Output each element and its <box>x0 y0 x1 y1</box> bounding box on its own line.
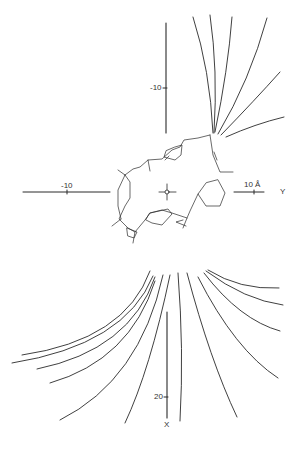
diagram-canvas <box>0 0 299 451</box>
x-tick-label-neg10: -10 <box>150 84 162 92</box>
y-tick-label-neg10: -10 <box>61 182 73 190</box>
upper-trajectories <box>193 15 284 137</box>
lower-trajectories <box>12 270 283 423</box>
x-axis-upper <box>163 23 167 133</box>
x-axis-lower <box>164 312 168 418</box>
y-axis-name: Y <box>280 188 285 196</box>
y-axis-right <box>234 190 264 194</box>
origin-crosshair-icon <box>159 184 176 200</box>
y-tick-label-10: 10 Å <box>244 181 260 189</box>
x-axis-name: X <box>164 421 169 429</box>
x-tick-label-20: 20 <box>154 393 163 401</box>
molecule-structure <box>112 135 233 243</box>
y-axis-left <box>23 190 110 194</box>
